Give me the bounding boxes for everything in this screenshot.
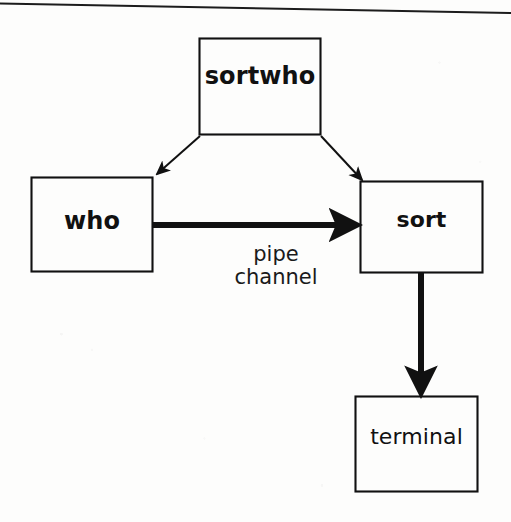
- diagram-canvas: sortwho who sort terminal pipe channel: [0, 0, 511, 522]
- node-terminal: terminal: [355, 396, 478, 492]
- node-label-sort: sort: [397, 209, 447, 231]
- node-who: who: [31, 177, 153, 272]
- node-sort: sort: [360, 181, 483, 273]
- edge-sortwho-to-who: [157, 136, 200, 174]
- node-label-sortwho: sortwho: [205, 64, 316, 88]
- top-horizontal-rule: [0, 4, 511, 14]
- edge-label-line-1: pipe: [205, 243, 347, 266]
- edge-sortwho-to-sort: [321, 136, 362, 180]
- edge-label-pipe-channel: pipe channel: [205, 243, 347, 288]
- edge-label-line-2: channel: [205, 266, 347, 289]
- node-label-who: who: [64, 209, 120, 233]
- node-sortwho: sortwho: [199, 38, 321, 135]
- node-label-terminal: terminal: [370, 426, 463, 448]
